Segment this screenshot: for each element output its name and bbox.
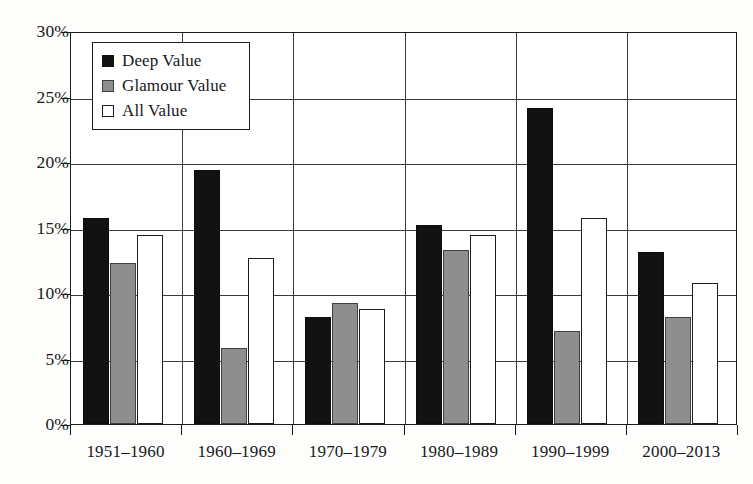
y-axis-tick-mark	[61, 294, 70, 295]
y-axis-tick-label: 25%	[0, 87, 69, 108]
x-axis-category-label: 1980–1989	[404, 442, 515, 462]
x-axis-category-label: 1960–1969	[181, 442, 292, 462]
x-axis-category-label: 1990–1999	[515, 442, 626, 462]
gridline	[71, 295, 736, 296]
y-axis-tick-label: 20%	[0, 152, 69, 173]
bar	[137, 235, 163, 424]
gridline	[71, 361, 736, 362]
filled-black-square-icon	[102, 55, 114, 67]
x-axis-category-label: 2000–2013	[626, 442, 737, 462]
bar	[470, 235, 496, 424]
x-axis-tick-mark	[515, 425, 516, 435]
bar-chart: 30%25%20%15%10%5%0% 1951–19601960–196919…	[0, 0, 753, 484]
group-separator	[516, 33, 517, 424]
x-axis-tick-mark	[626, 425, 627, 435]
y-axis-tick-label: 10%	[0, 283, 69, 304]
bar	[692, 283, 718, 424]
y-axis-tick-label: 0%	[0, 414, 69, 435]
bar	[527, 108, 553, 424]
y-axis-tick-label: 15%	[0, 218, 69, 239]
x-axis-category-label: 1970–1979	[292, 442, 403, 462]
bar	[332, 303, 358, 424]
bar	[194, 170, 220, 424]
legend-item: All Value	[102, 98, 241, 123]
y-axis-tick-mark	[61, 425, 70, 426]
gridline	[71, 230, 736, 231]
x-axis-tick-mark	[70, 425, 71, 435]
bar	[581, 218, 607, 424]
bar	[416, 225, 442, 424]
x-axis-tick-mark	[181, 425, 182, 435]
legend-item-label: Glamour Value	[122, 76, 226, 96]
group-separator	[293, 33, 294, 424]
bar	[83, 218, 109, 424]
legend-item-label: All Value	[122, 101, 187, 121]
y-axis-tick-mark	[61, 360, 70, 361]
bar	[638, 252, 664, 424]
group-separator	[627, 33, 628, 424]
outlined-white-square-icon	[102, 105, 114, 117]
bar	[359, 309, 385, 424]
y-axis-tick-mark	[61, 98, 70, 99]
bar	[443, 250, 469, 424]
x-axis-category-label: 1951–1960	[70, 442, 181, 462]
x-axis-tick-mark	[737, 425, 738, 435]
filled-gray-square-icon	[102, 80, 114, 92]
y-axis-tick-mark	[61, 163, 70, 164]
bar	[665, 317, 691, 424]
bar	[110, 263, 136, 424]
legend-item: Deep Value	[102, 48, 241, 73]
x-axis-tick-mark	[404, 425, 405, 435]
x-axis-tick-mark	[292, 425, 293, 435]
bar	[554, 331, 580, 424]
y-axis-tick-mark	[61, 32, 70, 33]
group-separator	[405, 33, 406, 424]
legend-item: Glamour Value	[102, 73, 241, 98]
legend-item-label: Deep Value	[122, 51, 202, 71]
y-axis-tick-mark	[61, 229, 70, 230]
bar	[248, 258, 274, 424]
bar	[305, 317, 331, 424]
gridline	[71, 164, 736, 165]
y-axis-tick-label: 30%	[0, 21, 69, 42]
y-axis-tick-label: 5%	[0, 349, 69, 370]
chart-legend: Deep ValueGlamour ValueAll Value	[92, 42, 250, 130]
bar	[221, 348, 247, 424]
